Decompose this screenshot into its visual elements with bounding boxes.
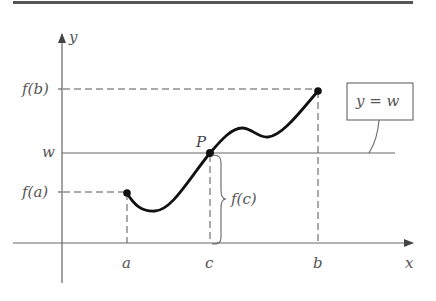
y-tick-w: w (42, 143, 55, 161)
top-rule (13, 1, 413, 4)
brace-fc (212, 155, 226, 244)
point-p (206, 149, 214, 157)
x-tick-a: a (122, 254, 131, 272)
ivt-diagram: y x f(b) w f(a) a c b P f(c) y = w (0, 0, 436, 301)
brace-label: f(c) (230, 190, 257, 208)
x-tick-b: b (313, 254, 323, 272)
y-tick-fa: f(a) (21, 183, 48, 201)
line-label: y = w (355, 92, 400, 110)
point-p-label: P (195, 133, 207, 151)
x-axis-label: x (405, 254, 414, 272)
point-b (314, 87, 322, 95)
leader-line (369, 120, 379, 153)
y-axis-label: y (68, 28, 78, 46)
y-tick-fb: f(b) (21, 80, 49, 98)
point-a (123, 189, 131, 197)
function-curve (127, 91, 318, 211)
x-tick-c: c (205, 254, 214, 272)
